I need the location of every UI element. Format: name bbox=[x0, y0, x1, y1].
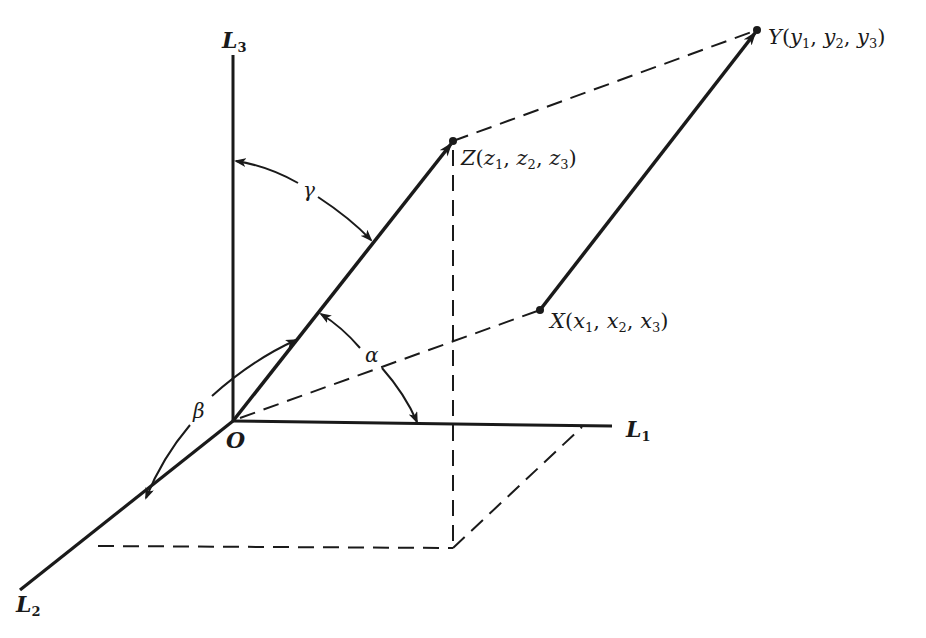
axis-l1 bbox=[233, 421, 612, 426]
vectors bbox=[233, 33, 755, 421]
point-z bbox=[449, 137, 457, 145]
vector-oz bbox=[233, 144, 451, 421]
label-beta: β bbox=[192, 399, 205, 423]
label-l1: L1 bbox=[625, 416, 651, 444]
coordinate-diagram: L3 L1 L2 O Z(z1, z2, z3) Y(y1, y2, y3) X… bbox=[0, 0, 926, 638]
dashed-lines bbox=[98, 30, 757, 548]
point-x bbox=[536, 306, 544, 314]
label-l3: L3 bbox=[221, 27, 247, 55]
label-origin: O bbox=[226, 427, 245, 453]
dashed-base-right bbox=[453, 427, 582, 548]
beta-arc-upper bbox=[212, 340, 296, 396]
vector-xy bbox=[540, 33, 755, 310]
label-l2: L2 bbox=[15, 591, 41, 619]
dashed-z-to-y bbox=[453, 30, 757, 141]
label-gamma: γ bbox=[303, 178, 315, 202]
gamma-arc-left bbox=[236, 161, 298, 183]
label-alpha: α bbox=[365, 343, 379, 367]
point-y bbox=[753, 26, 761, 34]
alpha-arc-upper bbox=[321, 314, 360, 348]
label-point-y: Y(y1, y2, y3) bbox=[768, 25, 885, 51]
dashed-o-to-x bbox=[240, 310, 540, 418]
angle-arcs bbox=[146, 161, 417, 498]
label-point-z: Z(z1, z2, z3) bbox=[460, 146, 577, 172]
axis-l2 bbox=[20, 421, 233, 590]
label-point-x: X(x1, x2, x3) bbox=[548, 309, 668, 335]
axes bbox=[20, 55, 612, 590]
gamma-arc-right bbox=[318, 197, 371, 240]
dashed-base-front bbox=[98, 546, 453, 548]
alpha-arc-lower bbox=[382, 368, 417, 422]
